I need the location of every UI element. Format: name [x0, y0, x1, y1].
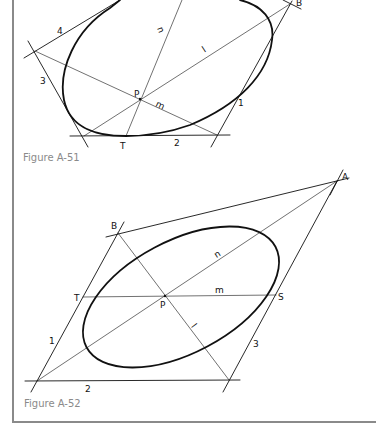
page-frame: B P T n l m 1 2 3 4 Figure A-51	[0, 0, 376, 431]
line-n	[37, 181, 337, 381]
line-m	[83, 295, 276, 297]
figure-a52-diagram: A B T S P n m l 1 2 3	[0, 0, 376, 431]
label-l: l	[189, 322, 199, 330]
tangent-line-3	[223, 181, 337, 392]
label-t: T	[73, 293, 80, 303]
label-s: S	[278, 292, 284, 302]
label-tangent-3: 3	[253, 339, 259, 349]
point-p	[164, 295, 166, 297]
label-b: B	[111, 221, 117, 231]
label-tangent-2: 2	[85, 384, 91, 394]
tangent-line-top	[106, 178, 349, 237]
label-tangent-1: 1	[49, 336, 55, 346]
tangent-line-2	[25, 380, 240, 381]
label-p: P	[160, 300, 166, 310]
label-a: A	[342, 172, 349, 182]
caption-figure-a52: Figure A-52	[24, 398, 81, 409]
tangent-line-1	[31, 222, 124, 392]
label-m: m	[215, 285, 224, 295]
line-l	[118, 233, 229, 380]
